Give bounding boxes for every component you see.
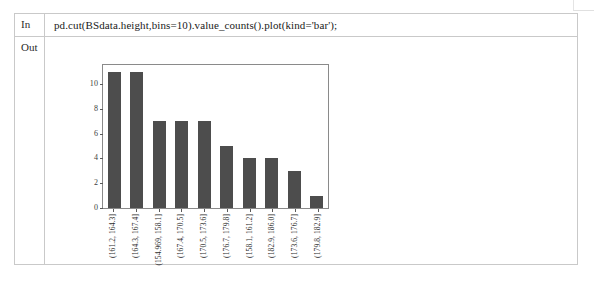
bar <box>310 196 323 208</box>
bar-slot <box>238 65 261 208</box>
x-axis-tick-label: (167.4, 170.5] <box>177 214 185 258</box>
notebook-output-row: Out 1086420 (161.2, 164.3](164.3, 167.4]… <box>15 37 577 265</box>
x-tick-slot: (173.6, 176.7] <box>284 209 307 255</box>
output-cell: 1086420 (161.2, 164.3](164.3, 167.4](154… <box>45 37 577 265</box>
bar-slot <box>148 65 171 208</box>
x-axis-tick-mark <box>272 209 273 212</box>
output-prompt-label: Out <box>15 37 45 265</box>
x-tick-slot: (170.5, 173.6] <box>193 209 216 255</box>
x-axis-tick-mark <box>318 209 319 212</box>
x-axis-tick-label: (179.8, 182.9] <box>314 214 322 258</box>
bar-slot <box>261 65 284 208</box>
x-tick-slot: (167.4, 170.5] <box>170 209 193 255</box>
notebook-cell-table: In pd.cut(BSdata.height,bins=10).value_c… <box>14 13 578 265</box>
x-axis-tick-label: (182.9, 186.0] <box>268 214 276 258</box>
x-tick-slot: (179.8, 182.9] <box>306 209 329 255</box>
x-axis-tick-label: (154.969, 158.1] <box>155 214 163 266</box>
bar-slot <box>193 65 216 208</box>
x-tick-slot: (158.1, 161.2] <box>238 209 261 255</box>
x-axis-tick-mark <box>227 209 228 212</box>
bar <box>108 72 121 208</box>
x-axis-tick-mark <box>159 209 160 212</box>
x-tick-slot: (164.3, 167.4] <box>125 209 148 255</box>
x-axis-tick-mark <box>136 209 137 212</box>
x-axis-tick-label: (176.7, 179.8] <box>223 214 231 258</box>
x-tick-slot: (182.9, 186.0] <box>261 209 284 255</box>
bar-slot <box>103 65 126 208</box>
plot-axes-frame: 1086420 <box>102 64 329 209</box>
bar <box>198 121 211 208</box>
x-axis-tick-label: (173.6, 176.7] <box>291 214 299 258</box>
bar <box>288 171 301 208</box>
x-axis-tick-mark <box>181 209 182 212</box>
bar-slot <box>306 65 329 208</box>
x-axis-tick-label: (170.5, 173.6] <box>200 214 208 258</box>
x-axis-tick-mark <box>113 209 114 212</box>
bar <box>175 121 188 208</box>
x-axis-tick-mark <box>204 209 205 212</box>
x-tick-slot: (154.969, 158.1] <box>147 209 170 255</box>
x-axis-tick-mark <box>295 209 296 212</box>
y-axis-tick: 2 <box>94 179 103 187</box>
x-axis-tick-labels: (161.2, 164.3](164.3, 167.4](154.969, 15… <box>102 209 329 255</box>
bar-slot <box>171 65 194 208</box>
bar-chart-figure: 1086420 (161.2, 164.3](164.3, 167.4](154… <box>72 41 332 256</box>
bar <box>153 121 166 208</box>
bar <box>130 72 143 208</box>
y-axis-tick: 10 <box>90 80 103 88</box>
bar <box>220 146 233 208</box>
x-axis-tick-mark <box>250 209 251 212</box>
input-prompt-label: In <box>15 14 45 36</box>
bar-slot <box>216 65 239 208</box>
code-input-cell[interactable]: pd.cut(BSdata.height,bins=10).value_coun… <box>45 14 577 36</box>
bar-series <box>103 65 328 208</box>
x-axis-tick-label: (164.3, 167.4] <box>132 214 140 258</box>
y-axis-tick: 6 <box>94 130 103 138</box>
y-axis-tick: 4 <box>94 154 103 162</box>
bar <box>265 158 278 208</box>
x-tick-slot: (176.7, 179.8] <box>216 209 239 255</box>
scan-artifact <box>573 0 594 11</box>
x-axis-tick-label: (161.2, 164.3] <box>109 214 117 258</box>
notebook-input-row: In pd.cut(BSdata.height,bins=10).value_c… <box>15 14 577 37</box>
bar-slot <box>126 65 149 208</box>
x-tick-slot: (161.2, 164.3] <box>102 209 125 255</box>
x-axis-tick-label: (158.1, 161.2] <box>246 214 254 258</box>
bar <box>243 158 256 208</box>
y-axis-tick: 8 <box>94 105 103 113</box>
bar-slot <box>283 65 306 208</box>
